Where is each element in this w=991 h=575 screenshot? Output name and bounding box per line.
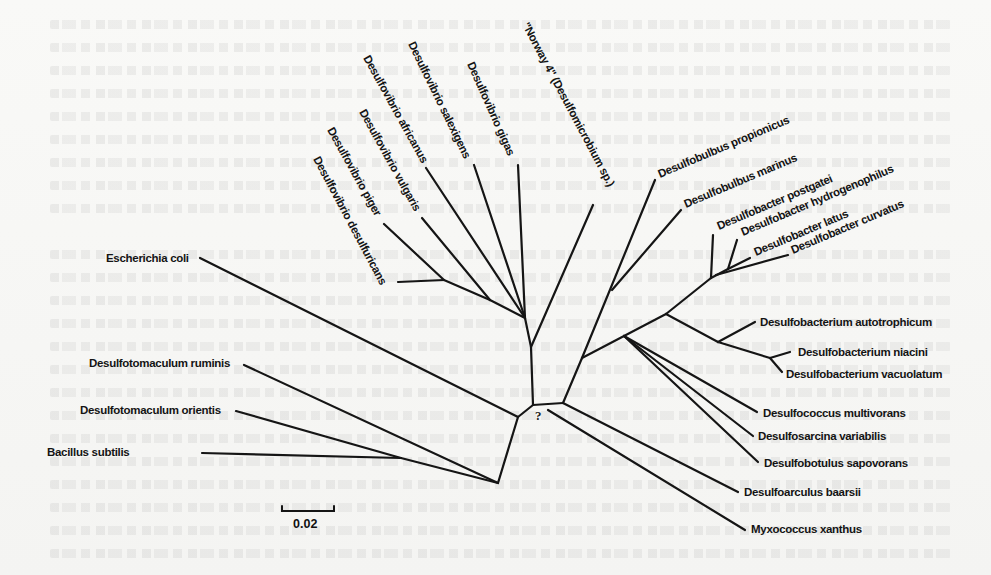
- leaf-label: Desulfobotulus sapovorans: [764, 457, 908, 469]
- clade-gram-positive: Desulfotomaculum ruminis Desulfotomaculu…: [47, 357, 498, 483]
- leaf-label: Bacillus subtilis: [47, 446, 129, 458]
- leaf-label: Desulfosarcina variabilis: [758, 430, 886, 442]
- leaf-label: "Norway 4" (Desulfomicrobium sp.): [520, 20, 617, 188]
- clade-deep-branches: Desulfoarculus baarsii Myxococcus xanthu…: [744, 486, 862, 535]
- clade-desulfobacterium: Desulfobacterium autotrophicum Desulfoba…: [624, 314, 942, 380]
- leaf-label: Desulfovibrio gigas: [465, 60, 517, 157]
- clade-desulfobacter: Desulfobacter postgatei Desulfobacter hy…: [666, 163, 905, 314]
- backbone-branches: [498, 347, 563, 483]
- clade-desulfovibrio: "Norway 4" (Desulfomicrobium sp.) Desulf…: [311, 20, 617, 347]
- clade-right-backbone: [548, 336, 745, 530]
- leaf-label: Desulfobacterium autotrophicum: [760, 316, 932, 328]
- leaf-label: Desulfococcus multivorans: [763, 407, 906, 419]
- scale-bar: 0.02: [282, 506, 334, 531]
- branch-e-coli: Escherichia coli: [106, 252, 518, 417]
- leaf-label: Desulfobacterium vacuolatum: [786, 368, 942, 380]
- leaf-label: Desulfobacterium niacini: [798, 346, 928, 358]
- phylogenetic-tree: Escherichia coli Desulfotomaculum rumini…: [0, 0, 991, 575]
- scale-bar-label: 0.02: [293, 517, 317, 531]
- leaf-label: Desulfotomaculum orientis: [80, 404, 221, 416]
- unresolved-node-marker: ?: [535, 408, 542, 423]
- leaf-label: Desulfoarculus baarsii: [744, 486, 861, 498]
- leaf-label: Myxococcus xanthus: [751, 523, 862, 535]
- leaf-label: Desulfotomaculum ruminis: [89, 357, 230, 369]
- leaf-label: Escherichia coli: [106, 252, 189, 264]
